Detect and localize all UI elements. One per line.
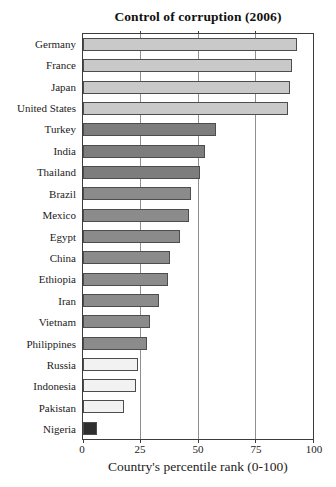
top-tick-50 — [198, 31, 199, 34]
bar-row-egypt — [83, 226, 313, 247]
bar-japan — [83, 81, 290, 94]
x-tick-label-75: 75 — [251, 443, 262, 455]
corruption-bar-chart-figure: Control of corruption (2006) GermanyFran… — [0, 0, 336, 487]
country-label-germany: Germany — [0, 33, 76, 54]
top-tick-75 — [255, 31, 256, 34]
bar-philippines — [83, 337, 147, 350]
country-label-mexico: Mexico — [0, 204, 76, 225]
bar-brazil — [83, 187, 191, 200]
bar-egypt — [83, 230, 180, 243]
bar-row-pakistan — [83, 396, 313, 417]
x-tick-label-25: 25 — [135, 443, 146, 455]
bar-united-states — [83, 102, 288, 115]
bar-row-turkey — [83, 119, 313, 140]
bar-iran — [83, 294, 159, 307]
country-label-indonesia: Indonesia — [0, 376, 76, 397]
country-label-china: China — [0, 247, 76, 268]
country-label-japan: Japan — [0, 76, 76, 97]
bar-france — [83, 59, 292, 72]
bar-row-philippines — [83, 332, 313, 353]
bar-row-mexico — [83, 205, 313, 226]
x-axis-label: Country's percentile rank (0-100) — [82, 459, 314, 475]
y-axis-country-labels: GermanyFranceJapanUnited StatesTurkeyInd… — [0, 33, 76, 440]
x-tick-label-100: 100 — [306, 443, 323, 455]
country-label-turkey: Turkey — [0, 119, 76, 140]
bar-row-brazil — [83, 183, 313, 204]
country-label-thailand: Thailand — [0, 162, 76, 183]
country-label-united-states: United States — [0, 97, 76, 118]
bar-row-indonesia — [83, 375, 313, 396]
bar-turkey — [83, 123, 216, 136]
country-label-brazil: Brazil — [0, 183, 76, 204]
bar-row-thailand — [83, 162, 313, 183]
bar-germany — [83, 38, 297, 51]
country-label-russia: Russia — [0, 354, 76, 375]
plot-area — [82, 33, 314, 440]
country-label-nigeria: Nigeria — [0, 419, 76, 440]
bar-ethiopia — [83, 273, 168, 286]
bar-row-nigeria — [83, 418, 313, 439]
bar-vietnam — [83, 315, 150, 328]
bar-row-vietnam — [83, 311, 313, 332]
bar-thailand — [83, 166, 200, 179]
country-label-vietnam: Vietnam — [0, 311, 76, 332]
bar-nigeria — [83, 422, 97, 435]
country-label-egypt: Egypt — [0, 226, 76, 247]
country-label-india: India — [0, 140, 76, 161]
bar-indonesia — [83, 379, 136, 392]
bar-china — [83, 251, 170, 264]
bar-india — [83, 145, 205, 158]
bar-row-japan — [83, 77, 313, 98]
country-label-iran: Iran — [0, 290, 76, 311]
country-label-france: France — [0, 54, 76, 75]
bar-row-ethiopia — [83, 268, 313, 289]
bar-mexico — [83, 209, 189, 222]
bar-row-france — [83, 55, 313, 76]
x-tick-label-50: 50 — [193, 443, 204, 455]
bar-rows — [83, 34, 313, 439]
bar-row-india — [83, 141, 313, 162]
country-label-ethiopia: Ethiopia — [0, 269, 76, 290]
bar-pakistan — [83, 400, 124, 413]
x-tick-label-0: 0 — [79, 443, 85, 455]
bar-row-germany — [83, 34, 313, 55]
bar-row-china — [83, 247, 313, 268]
x-axis-ticks: 0255075100 — [82, 443, 314, 457]
country-label-philippines: Philippines — [0, 333, 76, 354]
bar-row-russia — [83, 354, 313, 375]
top-tick-25 — [140, 31, 141, 34]
country-label-pakistan: Pakistan — [0, 397, 76, 418]
bar-row-iran — [83, 290, 313, 311]
bar-russia — [83, 358, 138, 371]
chart-title: Control of corruption (2006) — [82, 9, 314, 25]
bar-row-united-states — [83, 98, 313, 119]
